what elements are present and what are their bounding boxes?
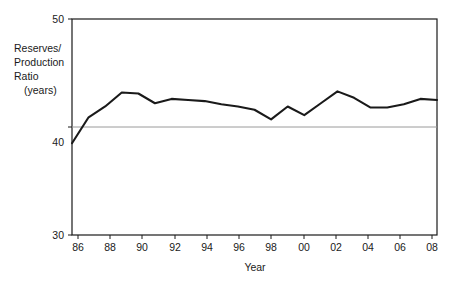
- x-tick-label-88: 88: [104, 241, 116, 253]
- x-tick-label-94: 94: [201, 241, 213, 253]
- y-tick-label-30: 30: [52, 229, 64, 241]
- x-tick-label-04: 04: [362, 241, 374, 253]
- x-tick-label-98: 98: [265, 241, 277, 253]
- y-axis-label-line-2: Production: [14, 56, 64, 68]
- y-tick-label-40: 40: [52, 136, 64, 148]
- y-axis-label-line-4: (years): [24, 84, 57, 96]
- x-tick-label-06: 06: [394, 241, 406, 253]
- x-tick-label-92: 92: [169, 241, 181, 253]
- x-axis-tick-labels: 86 88 90 92 94 96 98 00 02 04 06 08: [72, 241, 438, 253]
- x-tick-marks: [78, 235, 432, 239]
- x-tick-label-00: 00: [298, 241, 310, 253]
- x-tick-label-86: 86: [72, 241, 84, 253]
- y-tick-label-50: 50: [52, 13, 64, 25]
- x-tick-label-08: 08: [426, 241, 438, 253]
- y-axis-label-line-1: Reserves/: [14, 42, 61, 54]
- x-tick-label-02: 02: [330, 241, 342, 253]
- y-axis-label-line-3: Ratio: [14, 70, 39, 82]
- y-axis-label: Reserves/ Production Ratio (years): [14, 42, 64, 96]
- chart-figure: 50 40 30 Reserves/ Production Ratio (yea…: [0, 0, 454, 288]
- x-tick-label-96: 96: [233, 241, 245, 253]
- line-chart: 50 40 30 Reserves/ Production Ratio (yea…: [0, 0, 454, 288]
- x-tick-label-90: 90: [136, 241, 148, 253]
- x-axis-title: Year: [244, 261, 266, 273]
